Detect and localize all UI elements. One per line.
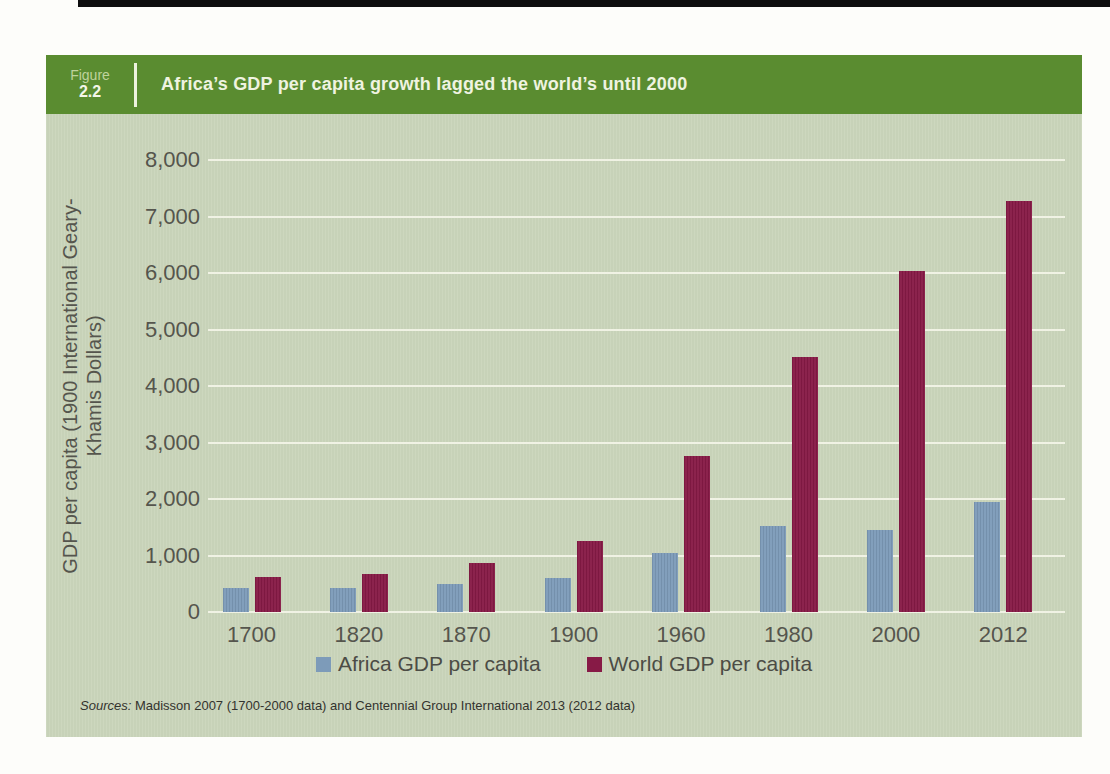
- figure-label-block: Figure 2.2: [46, 68, 134, 101]
- africa-legend-swatch: [316, 657, 331, 672]
- gridline-7000: [208, 216, 1065, 218]
- africa-bar-1960: [652, 553, 678, 612]
- x-tick-label-1820: 1820: [319, 622, 399, 648]
- world-bar-1870: [469, 563, 495, 612]
- world-legend-swatch: [587, 657, 602, 672]
- y-tick-label-0: 0: [60, 599, 200, 625]
- x-tick-label-2012: 2012: [963, 622, 1043, 648]
- source-text: Madisson 2007 (1700-2000 data) and Cente…: [131, 698, 635, 713]
- gridline-4000: [208, 385, 1065, 387]
- gridline-2000: [208, 498, 1065, 500]
- y-tick-label-8000: 8,000: [60, 147, 200, 173]
- world-bar-2000: [899, 271, 925, 612]
- figure-panel: Figure 2.2 Africa’s GDP per capita growt…: [46, 55, 1082, 737]
- world-bar-1700: [255, 577, 281, 612]
- africa-bar-1900: [545, 578, 571, 612]
- africa-bar-2012: [974, 502, 1000, 612]
- y-tick-label-5000: 5,000: [60, 317, 200, 343]
- chart-area: GDP per capita (1900 International Geary…: [46, 114, 1082, 737]
- x-tick-label-1960: 1960: [641, 622, 721, 648]
- x-tick-label-2000: 2000: [856, 622, 936, 648]
- x-tick-label-1870: 1870: [426, 622, 506, 648]
- x-tick-label-1980: 1980: [749, 622, 829, 648]
- figure-title: Africa’s GDP per capita growth lagged th…: [161, 74, 687, 95]
- figure-header: Figure 2.2 Africa’s GDP per capita growt…: [46, 55, 1082, 114]
- y-tick-label-3000: 3,000: [60, 430, 200, 456]
- world-bar-1900: [577, 541, 603, 612]
- africa-bar-1700: [223, 588, 249, 612]
- header-divider: [134, 63, 137, 107]
- plot-area: 01,0002,0003,0004,0005,0006,0007,0008,00…: [208, 160, 1065, 612]
- gridline-5000: [208, 329, 1065, 331]
- figure-label: Figure: [70, 68, 110, 83]
- world-bar-1820: [362, 574, 388, 612]
- figure-number: 2.2: [79, 83, 101, 101]
- source-prefix: Sources:: [80, 698, 131, 713]
- x-tick-label-1900: 1900: [534, 622, 614, 648]
- source-note: Sources: Madisson 2007 (1700-2000 data) …: [80, 698, 635, 713]
- y-tick-label-1000: 1,000: [60, 543, 200, 569]
- gridline-1000: [208, 555, 1065, 557]
- gridline-3000: [208, 442, 1065, 444]
- page: Figure 2.2 Africa’s GDP per capita growt…: [0, 0, 1110, 774]
- y-tick-label-2000: 2,000: [60, 486, 200, 512]
- africa-bar-1980: [760, 526, 786, 612]
- y-tick-label-7000: 7,000: [60, 204, 200, 230]
- world-bar-1980: [792, 357, 818, 612]
- africa-bar-2000: [867, 530, 893, 612]
- world-bar-2012: [1006, 201, 1032, 612]
- gridline-8000: [208, 159, 1065, 161]
- legend: Africa GDP per capita World GDP per capi…: [46, 652, 1082, 676]
- y-tick-label-4000: 4,000: [60, 373, 200, 399]
- world-bar-1960: [684, 456, 710, 613]
- gridline-6000: [208, 272, 1065, 274]
- x-tick-label-1700: 1700: [212, 622, 292, 648]
- scan-artifact-strip: [78, 0, 1110, 7]
- legend-item-world: World GDP per capita: [587, 652, 812, 676]
- africa-bar-1870: [437, 584, 463, 612]
- africa-legend-label: Africa GDP per capita: [338, 652, 541, 676]
- world-legend-label: World GDP per capita: [609, 652, 812, 676]
- y-tick-label-6000: 6,000: [60, 260, 200, 286]
- africa-bar-1820: [330, 588, 356, 612]
- legend-item-africa: Africa GDP per capita: [316, 652, 541, 676]
